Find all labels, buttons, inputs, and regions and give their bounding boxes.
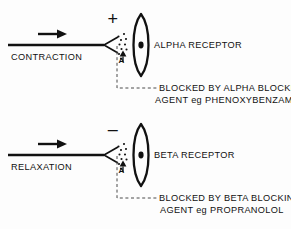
pathway-label-beta: RELAXATION [11, 162, 72, 172]
sign-minus-beta: – [108, 119, 118, 139]
nerve-terminal-alpha [104, 37, 118, 53]
direction-arrow-beta [38, 140, 67, 149]
receptor-shape-beta [134, 124, 149, 186]
direction-arrow-alpha [38, 30, 67, 39]
panel-beta: A – RELAXATION BETA RECEPTOR BLOCKED BY … [8, 119, 291, 215]
figure-canvas: A + CONTRACTION ALPHA RECEPTOR BLOCKED B… [0, 0, 291, 229]
receptor-label-alpha: ALPHA RECEPTOR [154, 40, 242, 50]
panel-alpha: A + CONTRACTION ALPHA RECEPTOR BLOCKED B… [8, 9, 291, 105]
receptor-shape-alpha [134, 14, 149, 76]
blocked-by-line2-alpha: AGENT eg PHENOXYBENZAMINE [155, 95, 291, 105]
neurotransmitter-label-beta: A [118, 166, 124, 175]
nerve-terminal-beta [104, 147, 118, 163]
blocked-by-line2-beta: AGENT eg PROPRANOLOL [160, 205, 284, 215]
receptor-label-beta: BETA RECEPTOR [154, 150, 235, 160]
blocked-by-line1-alpha: BLOCKED BY ALPHA BLOCKING [159, 83, 291, 93]
sign-plus-alpha: + [108, 9, 119, 29]
pathway-label-alpha: CONTRACTION [11, 52, 82, 62]
blocked-by-line1-beta: BLOCKED BY BETA BLOCKING [159, 193, 291, 203]
neurotransmitter-label-alpha: A [118, 56, 124, 65]
